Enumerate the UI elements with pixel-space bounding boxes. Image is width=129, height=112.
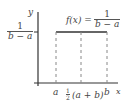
y-tick-numerator: 1 xyxy=(16,22,24,31)
x-tick-b: b xyxy=(104,88,110,97)
function-denominator: b − a xyxy=(94,19,120,29)
function-label: f(x) = xyxy=(66,16,92,25)
midpoint-half-fraction: 1 2 xyxy=(66,88,70,101)
y-tick-denominator: b − a xyxy=(7,31,33,41)
half-denominator: 2 xyxy=(66,94,70,101)
y-axis-label: y xyxy=(28,8,33,17)
function-fraction: 1 b − a xyxy=(94,10,120,29)
x-axis-label: x xyxy=(116,87,121,96)
x-tick-a: a xyxy=(53,88,58,97)
function-numerator: 1 xyxy=(103,10,111,19)
x-tick-midpoint: (a + b) xyxy=(72,91,103,100)
y-tick-fraction: 1 b − a xyxy=(7,22,33,41)
